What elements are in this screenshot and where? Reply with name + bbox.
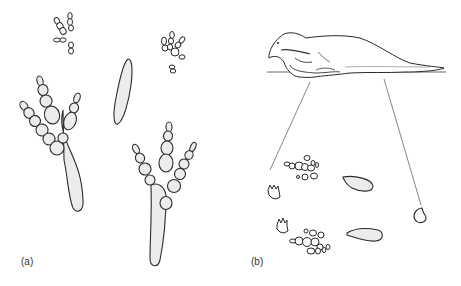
panel-b	[267, 33, 446, 254]
ischial-callosity-mark-lower	[347, 229, 382, 241]
figure-canvas	[0, 0, 461, 286]
panel-a-label: (a)	[21, 256, 33, 267]
tail-drag-mark	[114, 59, 132, 124]
small-footprint-top-right	[162, 32, 186, 74]
ischial-callosity-mark-upper	[343, 176, 373, 191]
panel-a	[18, 13, 197, 266]
pes-print-lower	[290, 229, 331, 254]
pes-print-upper	[284, 156, 319, 181]
small-footprint-top-left	[53, 13, 73, 55]
manus-print-lower	[277, 218, 288, 233]
large-tridactyl-footprint-right	[131, 122, 197, 266]
projection-line-right	[384, 79, 421, 205]
panel-b-label: (b)	[251, 256, 263, 267]
large-tridactyl-footprint-left	[18, 75, 83, 211]
crouching-dinosaur-silhouette	[269, 33, 444, 78]
manus-print-upper	[268, 185, 280, 199]
tail-tip-mark	[414, 208, 426, 223]
